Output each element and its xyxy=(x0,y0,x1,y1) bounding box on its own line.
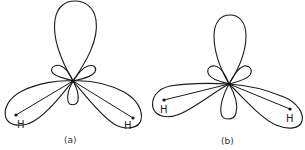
orbital-diagram: H H (a) H H (b) xyxy=(0,0,305,150)
caption-a: (a) xyxy=(64,135,77,145)
h-label-left-a: H xyxy=(17,119,25,130)
small-left-lobe-a xyxy=(52,65,73,81)
upper-lobe-a xyxy=(54,1,96,81)
bond-line-left-a xyxy=(16,81,73,115)
small-right-lobe-a xyxy=(73,65,96,81)
upper-lobe-b xyxy=(214,15,246,84)
central-atom-a xyxy=(71,79,74,82)
caption-b: (b) xyxy=(221,136,234,146)
h-atom-left-b xyxy=(162,98,165,101)
small-left-lobe-b xyxy=(208,66,229,84)
h-label-right-b: H xyxy=(286,113,294,124)
diagram-canvas: H H (a) H H (b) xyxy=(0,0,305,150)
panel-b: H H (b) xyxy=(153,15,303,146)
h-atom-left-a xyxy=(14,113,17,116)
central-atom-b xyxy=(227,82,230,85)
h-label-left-b: H xyxy=(160,104,168,115)
h-label-right-a: H xyxy=(124,120,132,131)
small-right-lobe-b xyxy=(229,66,251,84)
h-atom-right-a xyxy=(131,116,134,119)
bond-line-right-a xyxy=(73,81,133,118)
panel-a: H H (a) xyxy=(5,1,141,145)
bond-line-left-b xyxy=(164,84,229,100)
h-atom-right-b xyxy=(288,107,291,110)
bond-line-right-b xyxy=(229,84,290,109)
